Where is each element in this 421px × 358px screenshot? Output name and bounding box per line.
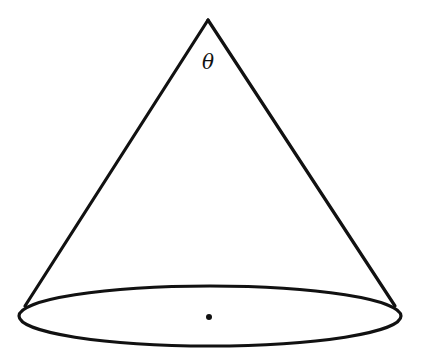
apex-angle-label: θ: [202, 50, 214, 74]
base-center-point: [206, 314, 212, 320]
cone-right-side: [208, 20, 395, 306]
cone-left-side: [25, 20, 208, 306]
cone-diagram: θ: [0, 0, 421, 358]
